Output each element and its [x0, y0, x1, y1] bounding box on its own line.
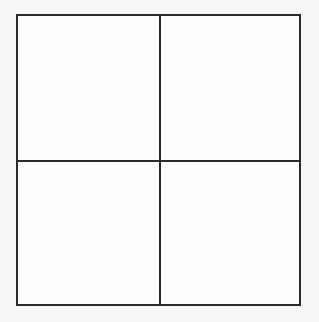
diagram-canvas [0, 0, 319, 322]
cell-bottom-right [161, 162, 299, 304]
cell-top-left [18, 16, 159, 160]
cell-top-right [161, 16, 299, 160]
cell-bottom-left [18, 162, 159, 304]
quadrant-grid [16, 14, 301, 306]
horizontal-divider [18, 160, 299, 162]
